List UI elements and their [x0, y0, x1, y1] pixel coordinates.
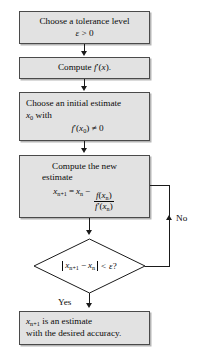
node-compute-new-estimate: Compute the new estimate xn+1=xn−f(xn)f′…	[19, 155, 150, 218]
initial-var-subscript: 0	[30, 113, 33, 120]
initial-with: with	[36, 110, 52, 120]
newton-fraction: f(xn)f′(xn)	[93, 191, 115, 212]
arrowhead-to-derivative	[81, 51, 87, 56]
arrowhead-to-newton	[81, 148, 87, 153]
node-initial-line1: Choose an initial estimate	[26, 98, 149, 110]
node-choose-tolerance: Choose a tolerance level ε > 0	[19, 11, 150, 44]
node-final-estimate: xn+1 is an estimate with the desired acc…	[19, 311, 150, 345]
node-convergence-decision: xn+1−xn<ε?	[33, 238, 146, 294]
connector-no-vertical	[169, 185, 170, 267]
edge-label-no: No	[176, 213, 187, 223]
arrowhead-no-loop	[166, 215, 172, 220]
newton-equals: =	[69, 186, 74, 196]
newton-minus: −	[85, 186, 90, 196]
flowchart-canvas: Choose a tolerance level ε > 0 Compute f…	[0, 0, 203, 357]
node-choose-initial-estimate: Choose an initial estimate x0 with f′(x0…	[19, 92, 150, 141]
newton-denominator: f′(xn)	[93, 202, 115, 212]
decision-label: xn+1−xn<ε?	[33, 238, 146, 294]
connector-no-horizontal-from-diamond	[145, 266, 170, 267]
node-initial-line2: x0 with	[26, 110, 149, 122]
result-line1-rest: is an estimate	[42, 316, 92, 326]
result-var-subscript: n+1	[30, 320, 40, 327]
decision-compare: <	[101, 261, 106, 271]
arrowhead-to-initial	[81, 86, 87, 91]
connector-no-horizontal-to-newton	[150, 185, 170, 186]
decision-question: ?	[113, 261, 117, 271]
node-tolerance-line1: Choose a tolerance level	[20, 16, 149, 28]
arrowhead-to-decision	[86, 230, 92, 235]
node-compute-derivative: Compute f′(x).	[19, 57, 150, 79]
node-result-line1: xn+1 is an estimate	[26, 316, 149, 328]
initial-cond-rest: ) ≠ 0	[86, 123, 103, 133]
newton-lhs-subscript: n+1	[57, 191, 67, 197]
derivative-prefix: Compute	[58, 62, 92, 72]
newton-rhs-subscript: n	[80, 191, 83, 197]
arrowhead-yes	[86, 303, 92, 308]
edge-label-yes: Yes	[58, 297, 71, 307]
node-initial-line3: f′(x0) ≠ 0	[26, 123, 149, 135]
node-newton-line1: Compute the new	[20, 161, 149, 173]
node-tolerance-line2: ε > 0	[20, 28, 149, 40]
node-result-line2: with the desired accuracy.	[26, 328, 149, 340]
node-newton-formula: xn+1=xn−f(xn)f′(xn)	[20, 186, 149, 212]
derivative-suffix: ).	[106, 62, 111, 72]
node-newton-line2: estimate	[20, 172, 149, 184]
decision-absolute-value: xn+1−xn	[62, 261, 98, 271]
node-derivative-text: Compute f′(x).	[20, 62, 149, 74]
epsilon-symbol: ε	[76, 28, 80, 38]
tolerance-condition: > 0	[81, 28, 93, 38]
